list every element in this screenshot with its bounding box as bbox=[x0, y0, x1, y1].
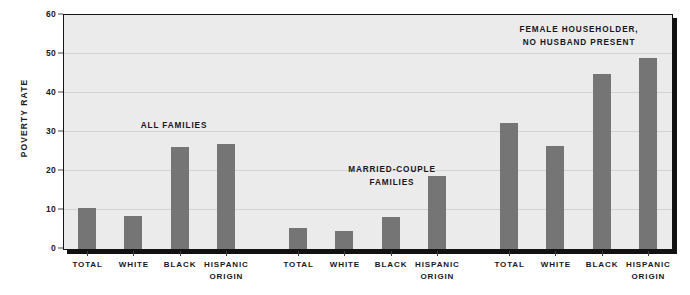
bar-married-couple-white bbox=[335, 231, 353, 249]
plot-area: All Families Married-Couple Families Fem… bbox=[63, 14, 673, 250]
bar-female-householder-hispanic bbox=[639, 58, 657, 249]
x-tick-g1-total bbox=[87, 251, 88, 256]
x-tick-g2-total bbox=[298, 251, 299, 256]
group-annotation-all-families: All Families bbox=[104, 119, 244, 132]
bar-female-householder-black bbox=[593, 74, 611, 249]
x-tick-g2-black bbox=[391, 251, 392, 256]
group-annotation-female-householder: Female Householder, No Husband Present bbox=[484, 23, 673, 49]
y-axis-title: Poverty Rate bbox=[19, 58, 29, 178]
x-tick-g1-hispanic bbox=[226, 251, 227, 256]
x-tick-g1-black bbox=[180, 251, 181, 256]
y-tick-label-0: 0 bbox=[30, 243, 56, 253]
x-tick-g1-white bbox=[133, 251, 134, 256]
bar-all-families-white bbox=[124, 216, 142, 249]
x-tick-g3-black bbox=[602, 251, 603, 256]
x-label-g1-hispanic: Hispanic Origin bbox=[189, 259, 263, 283]
y-tick-label-50: 50 bbox=[30, 48, 56, 58]
y-tick-label-10: 10 bbox=[30, 204, 56, 214]
gridline-10 bbox=[64, 209, 672, 210]
x-label-g2-hispanic: Hispanic Origin bbox=[400, 259, 474, 283]
y-tick-label-20: 20 bbox=[30, 165, 56, 175]
bar-all-families-hispanic bbox=[217, 144, 235, 249]
gridline-40 bbox=[64, 92, 672, 93]
x-tick-g3-hispanic bbox=[648, 251, 649, 256]
bar-all-families-total bbox=[78, 208, 96, 249]
poverty-rate-bar-chart: Poverty Rate 60 50 40 30 20 10 0 bbox=[0, 0, 690, 295]
x-tick-g2-hispanic bbox=[437, 251, 438, 256]
y-tick-label-40: 40 bbox=[30, 87, 56, 97]
x-tick-g3-total bbox=[509, 251, 510, 256]
y-axis-tick-labels: 60 50 40 30 20 10 0 bbox=[30, 0, 56, 295]
y-tick-label-60: 60 bbox=[30, 9, 56, 19]
y-tick-label-30: 30 bbox=[30, 126, 56, 136]
x-tick-g3-white bbox=[555, 251, 556, 256]
bar-female-householder-white bbox=[546, 146, 564, 249]
x-tick-g2-white bbox=[344, 251, 345, 256]
gridline-50 bbox=[64, 53, 672, 54]
x-label-g3-hispanic: Hispanic Origin bbox=[611, 259, 685, 283]
bar-married-couple-total bbox=[289, 228, 307, 249]
bar-all-families-black bbox=[171, 147, 189, 250]
bar-married-couple-black bbox=[382, 217, 400, 249]
bar-female-householder-total bbox=[500, 123, 518, 249]
group-annotation-married-couple: Married-Couple Families bbox=[302, 163, 482, 189]
